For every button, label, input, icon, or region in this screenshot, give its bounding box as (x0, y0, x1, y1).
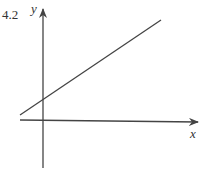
linear-function-line (20, 20, 161, 115)
x-axis-label: x (190, 127, 196, 140)
graph-svg (0, 0, 203, 174)
x-axis (20, 120, 198, 122)
figure-number-label: 4.2 (2, 8, 18, 21)
figure-canvas: 4.2 y x (0, 0, 203, 174)
y-axis-label: y (31, 2, 37, 15)
